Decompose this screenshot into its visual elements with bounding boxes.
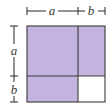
region-ab-bottom (27, 76, 78, 102)
top-dimension: a b (27, 3, 105, 18)
left-label-b: b (11, 82, 18, 97)
square-diagram: a b a b (0, 0, 112, 109)
left-label-a: a (11, 43, 18, 58)
top-label-a: a (49, 3, 56, 18)
left-dimension: a b (10, 26, 18, 102)
region-b-squared (78, 76, 105, 102)
region-a-squared (27, 26, 78, 76)
top-label-b: b (88, 3, 95, 18)
region-ab-right (78, 26, 105, 76)
